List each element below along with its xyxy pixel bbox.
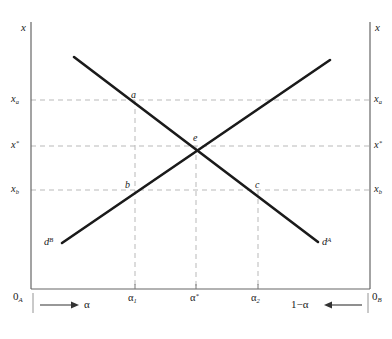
origin-B-sub: B xyxy=(378,296,382,303)
one-minus-alpha-arrow-head xyxy=(324,302,332,309)
right-tick-xa-sub: a xyxy=(379,98,382,105)
right-tick-xstar-sup: * xyxy=(379,139,382,146)
curve-dA-sup: A xyxy=(327,236,331,243)
horizontal-guides xyxy=(31,100,370,190)
x-tick-label-alpha1: α1 xyxy=(128,293,137,304)
x-tick-alphastar-sup: * xyxy=(196,292,199,299)
economics-diagram-figure xyxy=(0,0,392,339)
left-tick-xa-sub: a xyxy=(16,98,19,105)
origin-label-B: 0B xyxy=(372,291,382,304)
x-axis-ticks xyxy=(135,284,258,289)
one-minus-alpha-direction-label: 1−α xyxy=(291,299,308,310)
alpha-direction-arrow xyxy=(40,302,79,309)
left-tick-xstar-sup: * xyxy=(16,139,19,146)
point-label-c: c xyxy=(255,180,259,190)
origin-A-sub: A xyxy=(19,296,23,303)
alpha-direction-label: α xyxy=(84,299,90,310)
curve-label-d-B: dB xyxy=(44,237,53,248)
right-tick-label-xb: xb xyxy=(374,184,382,195)
left-tick-label-xa: xa xyxy=(11,94,19,105)
curve-d-A xyxy=(74,57,318,242)
point-label-b: b xyxy=(125,180,130,190)
right-axis-variable-label: x xyxy=(375,22,380,33)
left-tick-xb-sub: b xyxy=(16,188,19,195)
origin-label-A: 0A xyxy=(13,291,23,304)
one-minus-alpha-direction-arrow xyxy=(324,302,362,309)
x-tick-label-alphastar: α* xyxy=(190,293,199,304)
right-tick-label-xstar: x* xyxy=(374,140,382,151)
left-axis-variable-label: x xyxy=(21,22,26,33)
vertical-guides xyxy=(135,100,258,289)
x-tick-alpha1-sub: 1 xyxy=(134,297,137,304)
x-tick-label-alpha2: α2 xyxy=(251,293,260,304)
curve-d-B xyxy=(62,60,330,243)
point-label-e: e xyxy=(193,133,197,143)
curve-dB-sup: B xyxy=(49,236,53,243)
left-tick-label-xb: xb xyxy=(11,184,19,195)
right-tick-xb-sub: b xyxy=(379,188,382,195)
point-label-a: a xyxy=(131,90,136,100)
x-tick-alpha2-sub: 2 xyxy=(257,297,260,304)
curve-label-d-A: dA xyxy=(322,237,331,248)
right-tick-label-xa: xa xyxy=(374,94,382,105)
alpha-arrow-head xyxy=(71,302,79,309)
left-tick-label-xstar: x* xyxy=(11,140,19,151)
